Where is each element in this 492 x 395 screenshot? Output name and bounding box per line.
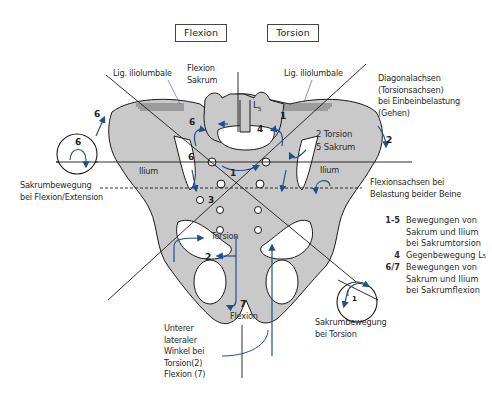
- number-2-right: 2: [386, 135, 392, 145]
- number-1-center: 1: [230, 168, 236, 178]
- flexion-box: Flexion: [175, 24, 227, 42]
- label-flexion-sakrum: Flexion Sakrum: [187, 63, 217, 86]
- number-1-top: 1: [280, 111, 286, 121]
- label-l5: L5: [253, 100, 261, 114]
- label-sakrum-flex-ext: Sakrumbewegung bei Flexion/Extension: [20, 180, 103, 203]
- label-lig-iliolumbale-right: Lig. iliolumbale: [284, 68, 343, 80]
- label-torsion-sakrum: 2 Torsion 5 Sakrum: [316, 128, 355, 154]
- legend-item-1-5: 1-5 Bewegungen vonSakrum und Iliumbei Sa…: [378, 215, 481, 250]
- number-6-circle: 6: [75, 137, 81, 147]
- number-1-circle: 1: [352, 295, 357, 303]
- label-ilium-right: Ilium: [320, 165, 339, 177]
- label-sakrum-torsion: Sakrumbewegung bei Torsion: [315, 317, 386, 340]
- label-torsion-center: Torsion: [211, 231, 238, 243]
- circle-torsion: [337, 282, 377, 322]
- legend-item-4: 4 Gegenbewegung L₅: [378, 250, 486, 262]
- number-6-lower: 6: [188, 152, 194, 162]
- number-6-upper: 6: [189, 117, 195, 127]
- legend-item-6-7: 6/7 Bewegungen vonSakrum und Iliumbei Sa…: [378, 262, 480, 297]
- label-diagonal-axes: Diagonalachsen (Torsionsachsen) bei Einb…: [378, 73, 460, 119]
- number-3: 3: [208, 195, 214, 205]
- number-4: 4: [257, 124, 263, 134]
- number-6-outer: 6: [94, 109, 100, 119]
- label-ilium-left: Ilium: [139, 166, 158, 178]
- label-flexion-axes: Flexionsachsen bei Belastung beider Bein…: [370, 177, 461, 200]
- number-2-lower: 2: [205, 252, 211, 262]
- sacrum: [204, 92, 284, 150]
- label-lig-iliolumbale-left: Lig. iliolumbale: [113, 68, 172, 80]
- label-flexion-bottom: Flexion: [230, 311, 258, 323]
- label-lower-lateral-angle: Unterer lateraler Winkel bei Torsion(2) …: [164, 323, 205, 381]
- torsion-box: Torsion: [267, 24, 319, 42]
- number-7: 7: [240, 299, 246, 309]
